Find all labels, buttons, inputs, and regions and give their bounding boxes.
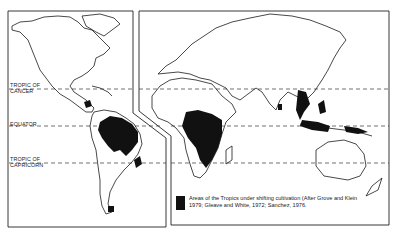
greenland-outline <box>82 14 120 36</box>
left-panel-frame <box>8 11 166 227</box>
old-world <box>152 14 382 196</box>
north-america-outline <box>12 16 110 112</box>
indonesia-cultivation-area <box>300 120 330 132</box>
philippines-cultivation-area <box>318 100 326 114</box>
right-panel-frame <box>139 11 389 225</box>
tierra-del-fuego <box>108 206 114 212</box>
new-zealand-outline <box>366 178 382 196</box>
equator-label: EQUATOR <box>10 121 37 127</box>
southeast-asia-cultivation-area <box>296 90 310 120</box>
eurasia-outline <box>158 14 346 110</box>
tropic-of-cancer-label: TROPIC OF CANCER <box>10 82 40 94</box>
central-america-area <box>84 100 92 108</box>
madagascar-outline <box>226 146 232 164</box>
caribbean-outline <box>92 86 112 96</box>
new-guinea-cultivation-area <box>344 126 368 134</box>
india-cultivation-area <box>278 104 282 110</box>
americas <box>12 14 142 214</box>
legend-text: Areas of the Tropics under shifting cult… <box>189 195 369 209</box>
tropic-of-capricorn-label: TROPIC OF CAPRICORN <box>10 156 43 168</box>
legend-swatch-shifting-cultivation <box>176 196 185 210</box>
africa-cultivation-area <box>182 110 222 168</box>
australia-outline <box>316 140 366 180</box>
